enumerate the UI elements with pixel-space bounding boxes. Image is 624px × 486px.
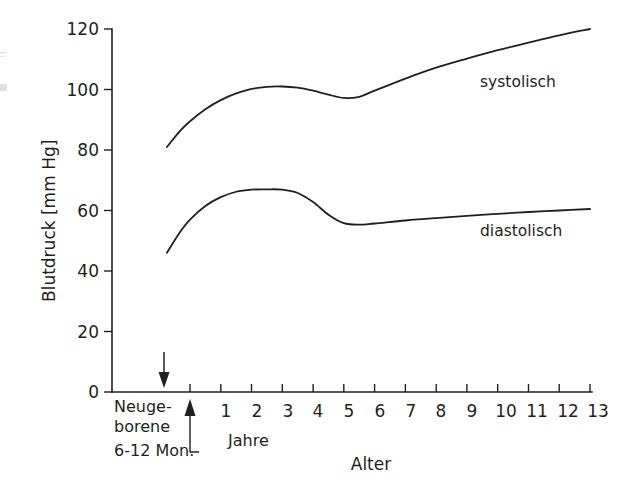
x-tick-label-8: 8 <box>436 401 447 421</box>
y-tick-label-20: 20 <box>77 322 99 342</box>
blood-pressure-age-chart: 120 100 80 60 40 20 0 Blutdruck [mm Hg] <box>0 0 624 486</box>
x-axis-title: Alter <box>351 454 391 474</box>
x-tick-label-3: 3 <box>283 401 294 421</box>
y-tick-label-120: 120 <box>67 19 99 39</box>
x-tick-label-7: 7 <box>406 401 417 421</box>
x-tick-label-4: 4 <box>313 401 324 421</box>
data-curves <box>167 29 590 253</box>
x-tick-label-10: 10 <box>495 401 517 421</box>
y-axis: 120 100 80 60 40 20 0 Blutdruck [mm Hg] <box>39 19 112 402</box>
x-tick-label-11: 11 <box>526 401 548 421</box>
x-tick-label-6: 6 <box>375 401 386 421</box>
y-tick-label-40: 40 <box>77 261 99 281</box>
series-label-diastolisch: diastolisch <box>480 222 562 240</box>
newborn-arrow-down-icon <box>159 352 170 388</box>
chart-svg: 120 100 80 60 40 20 0 Blutdruck [mm Hg] <box>0 0 624 486</box>
y-tick-label-80: 80 <box>77 140 99 160</box>
category-annotations: Neuge- borene 6-12 Mon. <box>114 352 199 460</box>
x-axis: 1 2 3 4 5 6 7 8 9 10 11 12 13 Jahre Alte… <box>112 384 609 474</box>
x-tick-label-13: 13 <box>587 401 609 421</box>
x-tick-label-9: 9 <box>467 401 478 421</box>
page-edge-ghost-marks <box>0 52 7 91</box>
newborn-label-line1: Neuge- <box>114 397 172 416</box>
x-tick-label-12: 12 <box>557 401 579 421</box>
y-tick-label-0: 0 <box>88 382 99 402</box>
x-tick-label-1: 1 <box>221 401 232 421</box>
six-twelve-months-label: 6-12 Mon. <box>114 441 194 460</box>
y-tick-label-60: 60 <box>77 201 99 221</box>
y-tick-label-100: 100 <box>67 80 99 100</box>
x-unit-label-jahre: Jahre <box>227 431 269 450</box>
series-label-systolisch: systolisch <box>480 73 556 91</box>
x-tick-label-2: 2 <box>252 401 263 421</box>
y-axis-title: Blutdruck [mm Hg] <box>39 140 59 302</box>
newborn-label-line2: borene <box>114 417 170 436</box>
x-tick-label-5: 5 <box>344 401 355 421</box>
